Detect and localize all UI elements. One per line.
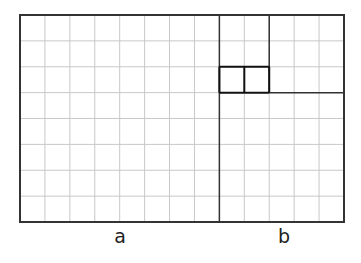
label-b: b [278,225,290,247]
grid-diagram [0,0,361,263]
label-a: a [114,225,126,247]
